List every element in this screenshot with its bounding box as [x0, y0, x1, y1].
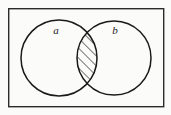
set-a-label: a	[53, 24, 59, 36]
set-b-label: b	[112, 24, 118, 36]
venn-diagram-canvas: a b	[0, 0, 171, 115]
venn-diagram-figure: a b	[0, 0, 171, 115]
